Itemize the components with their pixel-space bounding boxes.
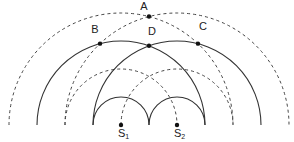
interference-diagram: A B C D S1 S2: [0, 0, 294, 142]
solid-wavefront-s2-1: [149, 97, 205, 125]
solid-wavefront-s1-1: [93, 97, 149, 125]
point-a-dot: [147, 14, 151, 18]
label-source-s2: S2: [174, 127, 185, 140]
point-c-dot: [196, 41, 200, 45]
label-point-b: B: [91, 23, 98, 35]
label-source-s1: S1: [118, 127, 129, 140]
label-point-d: D: [148, 25, 156, 37]
label-point-a: A: [140, 0, 148, 12]
point-b-dot: [98, 41, 102, 45]
label-point-c: C: [199, 20, 207, 32]
solid-wavefront-s1-3: [37, 41, 205, 125]
point-d-dot: [147, 44, 151, 48]
solid-wavefront-s2-3: [93, 41, 261, 125]
